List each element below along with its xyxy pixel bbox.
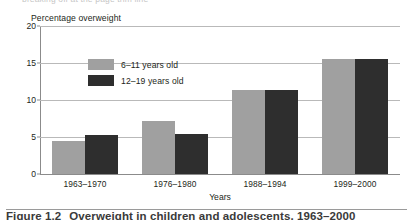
bar-group [322,26,388,174]
y-tick-label: 15 [26,58,36,68]
x-category-label: 1988–1994 [244,179,287,189]
bar [322,59,355,174]
figure-overweight-children: breaking off at the page trim line Perce… [0,0,413,220]
bar-group [142,26,208,174]
y-tick-mark [37,137,40,138]
figure-number: Figure 1.2 [6,210,61,220]
y-tick-mark [37,174,40,175]
bar-group [52,26,118,174]
bar [232,90,265,174]
bar [85,135,118,174]
bar [142,121,175,174]
legend-swatch-icon [88,59,114,70]
x-category-label: 1963–1970 [64,179,107,189]
figure-caption-text: Overweight in children and adolescents, … [69,210,355,220]
legend: 6–11 years old 12–19 years old [88,58,184,90]
legend-swatch-icon [88,75,114,86]
legend-item: 6–11 years old [88,58,184,71]
bar [355,59,388,174]
y-tick-label: 10 [26,95,36,105]
cropped-running-text: breaking off at the page trim line [22,0,392,4]
x-category-label: 1976–1980 [154,179,197,189]
y-tick-label: 5 [31,132,36,142]
legend-item: 12–19 years old [88,74,184,87]
gridline [40,174,400,175]
y-tick-mark [37,100,40,101]
y-tick-mark [37,26,40,27]
bar [52,141,85,174]
figure-caption: Figure 1.2Overweight in children and ado… [6,210,407,220]
legend-item-label: 6–11 years old [121,60,178,70]
x-axis-title: Years [40,192,400,202]
y-tick-label: 20 [26,21,36,31]
bar [265,90,298,174]
bar [175,134,208,174]
y-axis-title: Percentage overweight [31,13,121,23]
plot-area: 05101520 1963–19701976–19801988–19941999… [40,26,400,174]
legend-item-label: 12–19 years old [121,76,184,86]
y-tick-mark [37,63,40,64]
bar-group [232,26,298,174]
x-category-label: 1999–2000 [334,179,377,189]
y-tick-label: 0 [31,169,36,179]
